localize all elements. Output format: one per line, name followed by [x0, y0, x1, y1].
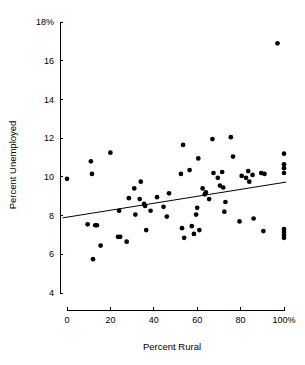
data-point-layer — [65, 41, 287, 262]
y-tick-label: 18% — [36, 17, 54, 27]
data-point — [222, 209, 227, 214]
data-point — [187, 168, 192, 173]
data-point — [155, 195, 160, 200]
x-tick-label: 20 — [105, 315, 115, 325]
x-axis: 020406080100% — [64, 307, 295, 325]
data-point — [250, 173, 255, 178]
data-point — [133, 212, 138, 217]
x-tick-label: 40 — [149, 315, 159, 325]
scatter-plot-figure: 4681012141618% 020406080100% Percent Rur… — [0, 0, 305, 365]
data-point — [189, 224, 194, 229]
plot-canvas: 4681012141618% 020406080100% Percent Rur… — [0, 0, 305, 365]
data-point — [197, 228, 202, 233]
data-point — [231, 154, 236, 159]
y-tick-label: 4 — [49, 288, 54, 298]
data-point — [237, 219, 242, 224]
data-point — [282, 166, 287, 171]
data-point — [282, 151, 287, 156]
y-axis-line — [60, 22, 63, 293]
y-axis: 4681012141618% — [36, 17, 63, 298]
y-tick-label: 12 — [44, 133, 54, 143]
data-point — [228, 135, 233, 140]
data-point — [221, 185, 226, 190]
data-point — [164, 214, 169, 219]
data-point — [161, 205, 166, 210]
data-point — [138, 179, 143, 184]
data-point — [137, 197, 142, 202]
data-point — [144, 228, 149, 233]
data-point — [247, 179, 252, 184]
y-tick-label: 10 — [44, 172, 54, 182]
data-point — [223, 200, 228, 205]
y-tick-label: 16 — [44, 56, 54, 66]
data-point — [215, 175, 220, 180]
data-point — [262, 172, 267, 177]
x-tick-label: 0 — [64, 315, 69, 325]
data-point — [126, 196, 131, 201]
x-tick-label: 60 — [192, 315, 202, 325]
data-point — [90, 172, 95, 177]
data-point — [192, 232, 197, 237]
data-point — [220, 170, 225, 175]
data-point — [282, 171, 287, 176]
data-point — [182, 235, 187, 240]
data-point — [91, 257, 96, 262]
y-tick-label: 6 — [49, 249, 54, 259]
data-point — [275, 41, 280, 46]
data-point — [200, 186, 205, 191]
data-point — [98, 243, 103, 248]
data-point — [211, 171, 216, 176]
data-point — [108, 150, 113, 155]
data-point — [282, 235, 287, 240]
data-point — [89, 159, 94, 164]
x-axis-title: Percent Rural — [143, 341, 201, 352]
x-axis-line — [67, 307, 284, 310]
data-point — [207, 197, 212, 202]
data-point — [246, 169, 251, 174]
data-point — [148, 208, 153, 213]
data-point — [118, 235, 123, 240]
regression-line-layer — [63, 182, 287, 218]
data-point — [244, 175, 249, 180]
data-point — [204, 190, 209, 195]
data-point — [124, 239, 129, 244]
data-point — [239, 174, 244, 179]
data-point — [65, 176, 70, 181]
y-tick-label: 14 — [44, 95, 54, 105]
data-point — [194, 212, 199, 217]
data-point — [95, 223, 100, 228]
data-point — [196, 156, 201, 161]
x-tick-label: 100% — [272, 315, 295, 325]
data-point — [261, 229, 266, 234]
data-point — [181, 143, 186, 148]
data-point — [179, 172, 184, 177]
y-axis-title: Percent Unemployed — [7, 121, 18, 210]
data-point — [210, 137, 215, 142]
data-point — [180, 226, 185, 231]
data-point — [85, 222, 90, 227]
x-tick-label: 80 — [236, 315, 246, 325]
y-tick-label: 8 — [49, 211, 54, 221]
regression-line — [63, 182, 287, 218]
data-point — [251, 216, 256, 221]
data-point — [167, 191, 172, 196]
data-point — [195, 205, 200, 210]
data-point — [132, 186, 137, 191]
